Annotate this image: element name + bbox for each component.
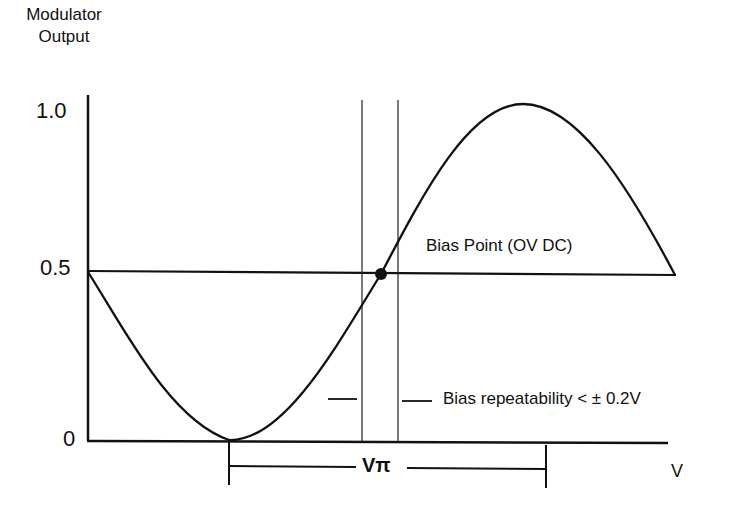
y-axis-title-line1: Modulator xyxy=(8,4,120,26)
vpi-bracket-line-left xyxy=(229,466,356,467)
x-axis-label: V xyxy=(671,461,683,482)
bias-repeatability-label: Bias repeatability < ± 0.2V xyxy=(443,389,641,409)
bias-point-marker xyxy=(375,268,387,280)
vpi-bracket-line-right xyxy=(407,468,546,469)
bias-point-label: Bias Point (OV DC) xyxy=(426,236,572,256)
y-tick-0: 0 xyxy=(63,426,75,452)
modulator-transfer-diagram xyxy=(0,0,735,510)
x-axis xyxy=(87,441,668,443)
y-axis-title-line2: Output xyxy=(8,26,120,48)
v-pi-label: Vπ xyxy=(362,454,391,477)
y-axis-title: Modulator Output xyxy=(8,4,120,48)
y-tick-0-5: 0.5 xyxy=(40,255,71,281)
y-tick-1-0: 1.0 xyxy=(36,98,67,124)
